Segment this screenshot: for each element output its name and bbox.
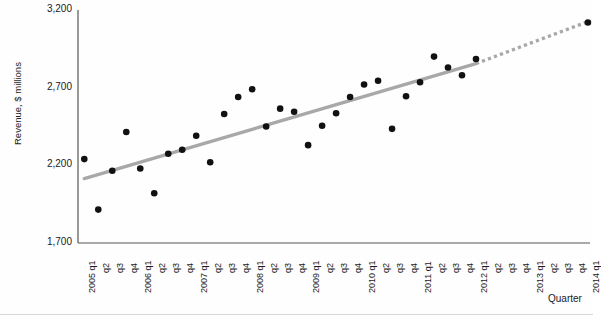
data-point [459, 72, 466, 79]
data-point [403, 93, 410, 100]
trendline-extension-segment [476, 22, 588, 64]
data-point [137, 165, 144, 172]
data-point [221, 111, 228, 118]
data-point [431, 53, 438, 60]
data-points [81, 19, 591, 213]
data-point [123, 129, 130, 136]
data-point [291, 108, 298, 115]
data-point [277, 105, 284, 112]
data-point [445, 64, 452, 71]
data-point [361, 81, 368, 88]
data-point [319, 122, 326, 129]
data-point [305, 142, 312, 149]
data-point [95, 206, 102, 213]
data-point [333, 110, 340, 117]
data-point [389, 126, 396, 133]
data-point [81, 156, 88, 163]
trendline-dotted-extension [476, 22, 588, 64]
data-point [151, 190, 158, 197]
data-point [207, 159, 214, 166]
data-point [417, 79, 424, 86]
data-point [193, 133, 200, 140]
data-point [179, 147, 186, 154]
data-point [109, 167, 116, 174]
x-tick-2014-q1: 2014 q1 [592, 260, 601, 293]
axis-lines [78, 10, 590, 243]
data-point [249, 86, 256, 93]
data-point [473, 56, 480, 63]
data-point [263, 123, 270, 130]
data-point [165, 150, 172, 157]
data-point [375, 77, 382, 84]
data-point [585, 19, 592, 26]
data-point [235, 94, 242, 101]
data-point [347, 94, 354, 101]
